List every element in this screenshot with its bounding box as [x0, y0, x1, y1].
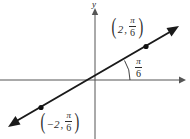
- line-arrowhead-upper-right: [167, 26, 180, 37]
- line-arrowhead-lower-left: [8, 116, 21, 127]
- upper-label-open-paren: (: [111, 18, 116, 37]
- lower-label-fraction: π 6: [64, 111, 73, 133]
- upper-point-label: ( 2 , π 6 ): [110, 16, 145, 38]
- plotted-line: [13, 29, 175, 123]
- angle-label-numerator: π: [136, 57, 141, 67]
- lower-label-numerator: π: [67, 111, 72, 121]
- lower-point-label: ( −2 , π 6 ): [39, 111, 81, 133]
- angle-label: π 6: [134, 57, 143, 79]
- upper-label-denominator: 6: [130, 27, 135, 38]
- angle-label-denominator: 6: [136, 68, 141, 79]
- y-axis-label: y: [92, 0, 96, 9]
- lower-label-open-paren: (: [40, 113, 45, 132]
- y-axis-arrowhead: [92, 8, 98, 15]
- angle-arc: [125, 61, 131, 81]
- upper-label-fraction: π 6: [128, 16, 137, 38]
- upper-label-close-paren: ): [138, 18, 143, 37]
- x-axis-arrowhead: [179, 77, 186, 84]
- lower-label-comma: ,: [61, 119, 65, 130]
- polar-line-figure: y ( 2 , π 6 ) ( −2 , π 6 ) π 6: [0, 0, 190, 139]
- upper-label-numerator: π: [130, 16, 135, 26]
- marked-point-upper: [143, 44, 148, 49]
- lower-label-close-paren: ): [75, 113, 80, 132]
- angle-label-fraction: π 6: [134, 57, 143, 79]
- graph-canvas: [0, 0, 190, 139]
- lower-label-denominator: 6: [66, 122, 71, 133]
- upper-label-comma: ,: [124, 24, 128, 35]
- lower-label-x-value: −2: [47, 119, 61, 130]
